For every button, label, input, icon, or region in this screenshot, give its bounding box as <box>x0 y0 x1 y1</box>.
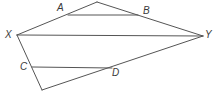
label-x: X <box>5 30 12 40</box>
geometry-diagram: A B X Y C D <box>0 0 214 97</box>
label-a: A <box>57 3 64 13</box>
segment-top-y <box>97 2 203 36</box>
label-c: C <box>20 62 27 72</box>
segment-cd <box>32 67 112 68</box>
diagram-lines <box>0 0 214 97</box>
label-b: B <box>143 6 150 16</box>
segment-xy <box>17 35 203 36</box>
label-d: D <box>112 68 119 78</box>
segment-bottom-y <box>42 36 203 90</box>
label-y: Y <box>205 30 212 40</box>
